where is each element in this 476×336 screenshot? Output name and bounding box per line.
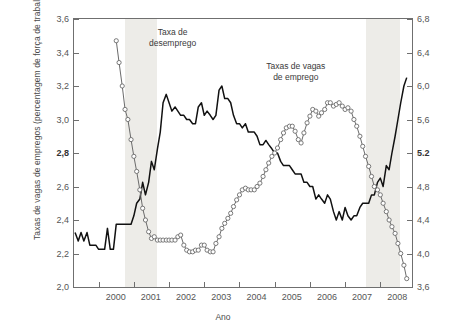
series-marker-vacancy	[308, 114, 312, 118]
series-marker-vacancy	[202, 243, 206, 247]
series-marker-vacancy	[352, 117, 356, 121]
chart-root: Taxas de vagas de empregos (percentagem …	[0, 0, 476, 336]
x-tick-label: 2000	[103, 292, 129, 302]
y-left-tick-label: 2,2	[45, 249, 69, 259]
x-tick-label: 2007	[349, 292, 375, 302]
vacancy-label-line1: Taxas de vagas	[256, 61, 336, 72]
y-left-tick-label: 2,0	[45, 282, 69, 292]
series-lines	[74, 19, 412, 287]
series-marker-vacancy	[211, 250, 215, 254]
series-marker-vacancy	[375, 188, 379, 192]
y-axis-right-ticks: 3,64,04,44,85.25,66,06,46,8	[417, 0, 447, 336]
y-right-tick-label: 4,0	[417, 249, 441, 259]
series-marker-vacancy	[196, 248, 200, 252]
plot-area: Taxa dedesempregoTaxas de vagasde empreg…	[73, 18, 413, 288]
x-tick-label: 2008	[384, 292, 410, 302]
series-marker-vacancy	[235, 198, 239, 202]
series-marker-vacancy	[384, 210, 388, 214]
x-tick-label: 2003	[208, 292, 234, 302]
y-left-tick-mark	[74, 287, 79, 288]
series-marker-vacancy	[261, 174, 265, 178]
series-marker-vacancy	[226, 216, 230, 220]
series-marker-vacancy	[229, 211, 233, 215]
x-axis-title-text: Ano	[215, 312, 230, 322]
series-marker-vacancy	[323, 107, 327, 111]
series-marker-vacancy	[399, 251, 403, 255]
series-marker-vacancy	[138, 188, 142, 192]
series-marker-vacancy	[147, 230, 151, 234]
series-marker-vacancy	[132, 154, 136, 158]
series-marker-vacancy	[114, 39, 118, 43]
y-right-tick-label: 6,8	[417, 14, 441, 24]
series-marker-vacancy	[396, 241, 400, 245]
series-marker-vacancy	[393, 231, 397, 235]
series-marker-vacancy	[367, 164, 371, 168]
series-marker-vacancy	[369, 174, 373, 178]
series-marker-vacancy	[123, 107, 127, 111]
series-marker-vacancy	[117, 60, 121, 64]
series-marker-vacancy	[126, 117, 130, 121]
series-marker-vacancy	[220, 226, 224, 230]
series-marker-vacancy	[223, 221, 227, 225]
series-marker-vacancy	[378, 193, 382, 197]
y-right-tick-label: 5.2	[417, 148, 441, 158]
vacancy-label: Taxas de vagasde emprego	[256, 61, 336, 83]
series-marker-vacancy	[381, 201, 385, 205]
x-tick-label: 2002	[173, 292, 199, 302]
series-marker-vacancy	[349, 109, 353, 113]
y-left-tick-label: 3,6	[45, 14, 69, 24]
series-marker-vacancy	[363, 154, 367, 158]
y-left-tick-label: 2,6	[45, 182, 69, 192]
vacancy-label-line2: de emprego	[256, 72, 336, 83]
series-marker-vacancy	[355, 124, 359, 128]
series-marker-vacancy	[237, 193, 241, 197]
x-tick-label: 2001	[138, 292, 164, 302]
unemployment-label-line1: Taxa de	[133, 27, 213, 38]
y-right-tick-label: 3,6	[417, 282, 441, 292]
y-left-tick-label: 3,2	[45, 81, 69, 91]
series-marker-vacancy	[314, 109, 318, 113]
series-marker-vacancy	[279, 138, 283, 142]
series-marker-vacancy	[281, 131, 285, 135]
y-axis-left-ticks: 2,02,22,42,62,83,03,23,43,6	[41, 0, 69, 336]
series-marker-vacancy	[273, 151, 277, 155]
series-marker-vacancy	[293, 129, 297, 133]
y-right-tick-mark	[407, 287, 412, 288]
y-left-tick-label: 2,4	[45, 215, 69, 225]
y-right-tick-label: 5,6	[417, 115, 441, 125]
unemployment-label-line2: desemprego	[133, 38, 213, 49]
x-tick-label: 2006	[314, 292, 340, 302]
series-marker-vacancy	[267, 161, 271, 165]
y-right-tick-label: 4,4	[417, 215, 441, 225]
y-right-tick-label: 4,8	[417, 182, 441, 192]
series-marker-vacancy	[358, 134, 362, 138]
series-marker-vacancy	[290, 124, 294, 128]
series-marker-vacancy	[258, 181, 262, 185]
y-right-tick-label: 6,4	[417, 48, 441, 58]
series-marker-vacancy	[135, 169, 139, 173]
series-marker-vacancy	[299, 141, 303, 145]
x-axis-title: Ano	[0, 312, 476, 322]
series-marker-vacancy	[143, 218, 147, 222]
y-right-tick-label: 6,0	[417, 81, 441, 91]
series-marker-vacancy	[129, 138, 133, 142]
x-tick-label: 2005	[279, 292, 305, 302]
series-marker-vacancy	[120, 84, 124, 88]
series-marker-vacancy	[402, 263, 406, 267]
series-marker-vacancy	[179, 233, 183, 237]
y-left-tick-label: 3,0	[45, 115, 69, 125]
series-marker-vacancy	[275, 146, 279, 150]
series-marker-vacancy	[302, 131, 306, 135]
unemployment-label: Taxa dedesemprego	[133, 27, 213, 49]
series-marker-vacancy	[231, 205, 235, 209]
series-marker-vacancy	[217, 235, 221, 239]
series-marker-vacancy	[387, 218, 391, 222]
series-marker-vacancy	[390, 225, 394, 229]
series-marker-vacancy	[305, 121, 309, 125]
y-left-tick-label: 3,4	[45, 48, 69, 58]
series-marker-vacancy	[405, 277, 409, 281]
series-marker-vacancy	[214, 241, 218, 245]
series-marker-vacancy	[182, 243, 186, 247]
y-left-tick-label: 2,8	[45, 148, 69, 158]
series-marker-vacancy	[141, 206, 145, 210]
